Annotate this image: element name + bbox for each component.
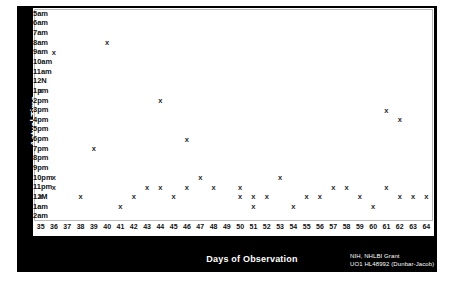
y-tick-8pm: 8pm <box>33 153 63 162</box>
data-point: x <box>157 183 164 192</box>
data-point: x <box>396 192 403 201</box>
data-point: x <box>197 173 204 182</box>
grant-credit-line-2: UO1 HL48992 (Dunbar-Jacob) <box>350 260 434 268</box>
data-point: x <box>104 38 111 47</box>
y-tick-12n: 12N <box>33 76 63 85</box>
data-point: x <box>356 192 363 201</box>
y-tick-10am: 10am <box>33 57 63 66</box>
data-point: x <box>144 183 151 192</box>
data-point: x <box>250 202 257 211</box>
data-point: x <box>303 192 310 201</box>
grant-credit: NIH, NHLBI Grant UO1 HL48992 (Dunbar-Jac… <box>350 252 434 268</box>
data-point: x <box>370 202 377 211</box>
y-tick-5pm: 5pm <box>33 124 63 133</box>
data-point: x <box>343 183 350 192</box>
data-point: x <box>117 202 124 211</box>
data-point: x <box>237 183 244 192</box>
data-point: x <box>277 173 284 182</box>
grant-credit-line-1: NIH, NHLBI Grant <box>350 252 434 260</box>
data-point: x <box>263 192 270 201</box>
y-tick-6pm: 6pm <box>33 134 63 143</box>
y-tick-10pm: 10pm <box>33 173 63 182</box>
y-tick-8am: 8am <box>33 38 63 47</box>
data-point: x <box>50 173 57 182</box>
y-tick-7am: 7am <box>33 28 63 37</box>
chart-figure: Actual Time Days of Observation NIH, NHL… <box>0 0 455 283</box>
data-point: x <box>383 183 390 192</box>
data-point: x <box>396 115 403 124</box>
x-axis-title: Days of Observation <box>167 254 337 264</box>
chart-canvas: 5am6am7am8am9am10am11am12N1pm2pm3pm4pm5p… <box>33 8 434 236</box>
data-point: x <box>77 192 84 201</box>
data-point: x <box>237 192 244 201</box>
y-tick-5am: 5am <box>33 9 63 18</box>
y-tick-7pm: 7pm <box>33 144 63 153</box>
data-point: x <box>183 135 190 144</box>
data-point: x <box>37 192 44 201</box>
y-tick-11am: 11am <box>33 67 63 76</box>
y-tick-4pm: 4pm <box>33 115 63 124</box>
data-point: x <box>316 192 323 201</box>
data-point: x <box>90 144 97 153</box>
data-point: x <box>250 192 257 201</box>
data-point: x <box>383 106 390 115</box>
y-tick-9pm: 9pm <box>33 163 63 172</box>
data-point: x <box>210 183 217 192</box>
y-tick-2pm: 2pm <box>33 96 63 105</box>
y-tick-6am: 6am <box>33 18 63 27</box>
x-tick-64: 64 <box>415 223 437 230</box>
y-tick-11pm: 11pm <box>33 182 63 191</box>
data-point: x <box>170 192 177 201</box>
data-point: x <box>50 48 57 57</box>
data-point: x <box>183 183 190 192</box>
data-point: x <box>37 86 44 95</box>
data-point: x <box>157 96 164 105</box>
data-point: x <box>130 192 137 201</box>
data-point: x <box>330 183 337 192</box>
y-tick-2am: 2am <box>33 211 63 220</box>
data-point: x <box>410 192 417 201</box>
data-point: x <box>50 183 57 192</box>
plot-area <box>34 9 433 221</box>
y-tick-3pm: 3pm <box>33 105 63 114</box>
data-point: x <box>423 192 430 201</box>
y-tick-1am: 1am <box>33 202 63 211</box>
data-point: x <box>290 202 297 211</box>
y-tick-9am: 9am <box>33 47 63 56</box>
